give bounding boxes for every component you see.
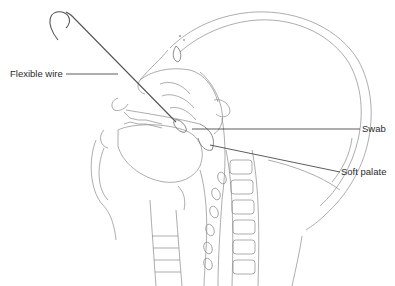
swab-tip <box>172 118 189 135</box>
mandible-inner <box>99 148 108 200</box>
hard-palate <box>126 110 200 124</box>
nasal-turbinate-2 <box>162 95 194 108</box>
anatomical-illustration: Flexible wire Swab Soft palate <box>0 0 395 286</box>
flexible-wire-shaft <box>66 12 176 122</box>
label-soft-palate: Soft palate <box>341 167 386 177</box>
upper-lip <box>112 98 128 111</box>
sphenoid-region <box>200 72 223 134</box>
soft-palate-shape <box>198 124 214 150</box>
lower-lip <box>101 130 108 148</box>
sella-region <box>214 100 230 117</box>
skull-inner-outline <box>180 20 361 206</box>
tongue <box>118 125 202 183</box>
trachea-front <box>150 200 156 286</box>
label-flexible-wire: Flexible wire <box>10 69 63 79</box>
nasal-turbinate-1 <box>160 82 190 94</box>
neck-back-contour <box>292 236 302 286</box>
trachea-rings <box>152 236 181 272</box>
cervical-vertebrae <box>226 150 259 286</box>
flexible-wire-hook <box>50 12 70 40</box>
mandible-outer <box>91 140 116 240</box>
epiglottis <box>178 186 185 210</box>
pharynx-posterior-wall <box>218 118 225 286</box>
leader-soft-palate <box>210 145 340 172</box>
head-neck-sagittal-drawing <box>0 0 395 286</box>
frontal-sinus <box>173 46 181 62</box>
label-swab: Swab <box>362 124 386 134</box>
skull-outer-outline <box>170 12 371 230</box>
